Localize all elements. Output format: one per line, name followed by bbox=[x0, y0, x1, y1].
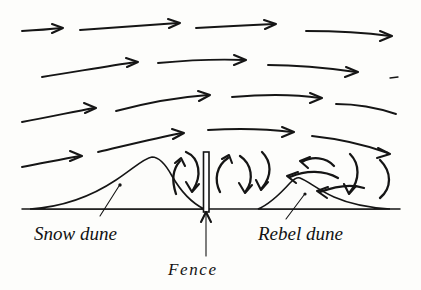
streamline-row-3 bbox=[22, 91, 396, 122]
wind-streamline-arrow bbox=[22, 103, 96, 122]
wind-streamline-arrow bbox=[232, 93, 322, 103]
wind-streamline-arrow bbox=[268, 65, 358, 77]
recirculation-eddy-arrow bbox=[217, 155, 232, 192]
rebel-dune-label: Rebel dune bbox=[257, 223, 343, 244]
recirculation-eddy-arrow bbox=[239, 156, 252, 193]
streamline-row-1 bbox=[22, 19, 392, 41]
wind-streamline-arrow bbox=[158, 55, 246, 65]
wind-streamline-arrow bbox=[80, 19, 180, 30]
recirculation-eddy-arrow bbox=[300, 157, 334, 168]
wind-streamline-arrow bbox=[196, 20, 276, 29]
wind-streamline-arrow bbox=[306, 31, 392, 41]
recirculation-eddy-tail bbox=[380, 160, 389, 198]
stray-ink-mark bbox=[390, 77, 398, 78]
snow-fence-vertical-panel bbox=[204, 152, 210, 212]
wind-streamline-arrow bbox=[116, 91, 210, 111]
rebel-dune-mound bbox=[258, 178, 390, 209]
wind-streamline-arrow bbox=[208, 127, 294, 137]
fence-label: Fence bbox=[167, 260, 218, 279]
recirculation-eddy-arrow bbox=[287, 172, 338, 183]
recirculation-eddy-arrow bbox=[256, 152, 270, 190]
wind-streamline-arrow bbox=[22, 24, 63, 33]
wind-streamline-tail bbox=[336, 104, 396, 114]
recirculation-eddy-arrow bbox=[186, 152, 199, 192]
snow-dune-label: Snow dune bbox=[34, 223, 117, 244]
wind-streamline-arrow bbox=[42, 58, 138, 77]
snow-fence-diagram: Snow dune Rebel dune Fence bbox=[0, 0, 421, 290]
diagram-canvas: Snow dune Rebel dune Fence bbox=[0, 0, 421, 290]
recirculation-eddy-arrow bbox=[344, 154, 358, 194]
wind-streamline-arrow bbox=[98, 129, 184, 152]
streamline-row-2 bbox=[42, 55, 398, 78]
fence-leader-arrow bbox=[201, 212, 211, 256]
wind-streamline-arrow bbox=[22, 151, 82, 167]
